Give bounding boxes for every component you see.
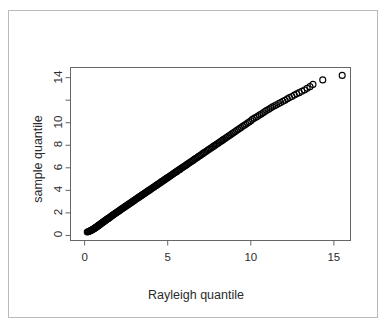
data-point-series <box>84 72 345 235</box>
y-tick-label: 10 <box>52 109 64 135</box>
y-tick-label: 6 <box>52 154 64 180</box>
plot-area: 051015 024681014 Rayleigh quantile sampl… <box>0 0 392 328</box>
x-tick-label: 0 <box>70 251 100 263</box>
y-tick-label: 8 <box>52 131 64 157</box>
y-tick-label: 14 <box>52 64 64 90</box>
y-tick-label: 4 <box>52 176 64 202</box>
x-tick-label: 5 <box>153 251 183 263</box>
y-axis-title: sample quantile <box>31 79 45 239</box>
y-tick-label: 0 <box>52 221 64 247</box>
x-tick-label: 15 <box>319 251 349 263</box>
y-axis-ticks <box>66 78 71 236</box>
x-tick-label: 10 <box>236 251 266 263</box>
x-axis-ticks <box>85 241 334 246</box>
x-axis-title: Rayleigh quantile <box>0 288 392 302</box>
qq-plot-figure: 051015 024681014 Rayleigh quantile sampl… <box>0 0 392 328</box>
y-tick-label: 2 <box>52 199 64 225</box>
